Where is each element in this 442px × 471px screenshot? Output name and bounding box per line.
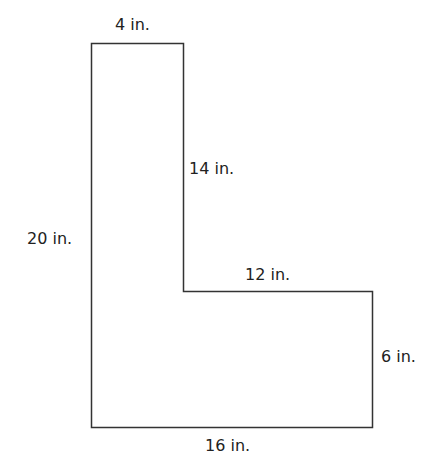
- label-inner-vertical: 14 in.: [189, 159, 234, 178]
- label-left-height: 20 in.: [27, 229, 72, 248]
- label-inner-horizontal: 12 in.: [245, 265, 290, 284]
- label-right-height: 6 in.: [381, 347, 416, 366]
- label-top-width: 4 in.: [115, 15, 150, 34]
- label-bottom-width: 16 in.: [205, 436, 250, 455]
- l-shape-outline: [92, 44, 373, 428]
